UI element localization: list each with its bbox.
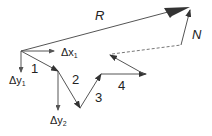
label-vector-1: 1 [31, 63, 38, 75]
label-dy1: Δy1 [9, 74, 26, 90]
label-vector-2: 2 [72, 74, 79, 86]
n-vector [181, 10, 190, 45]
label-vector-4: 4 [118, 80, 125, 92]
label-n: N [192, 29, 201, 41]
vector-5 [110, 55, 144, 74]
label-r: R [95, 10, 104, 22]
label-dy2: Δy2 [50, 114, 67, 130]
label-dx1: Δx1 [61, 46, 78, 62]
dashed-connector [112, 45, 181, 54]
resultant-arrowhead [164, 7, 190, 18]
label-vector-3: 3 [95, 92, 102, 104]
vector-1 [21, 51, 58, 71]
